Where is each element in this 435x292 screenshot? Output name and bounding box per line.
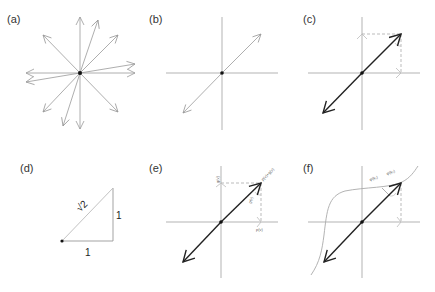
panel-c-label: (c) (303, 13, 316, 25)
origin-dot (219, 220, 223, 224)
hypotenuse-label: √2 (74, 198, 90, 214)
bold-vector-down-left (183, 222, 221, 262)
panel-f-label: (f) (303, 162, 313, 174)
diag-label: g(v) (247, 195, 254, 204)
vector-down-left (183, 73, 222, 113)
phi-label-1: φ(k₁) (369, 174, 379, 182)
phi-label-2: φ(k₂) (386, 168, 397, 176)
panel-e: (e) g(v) p(v) p(v)+g(v) g(v) (149, 162, 278, 278)
bold-vector-up-right (221, 183, 261, 222)
origin-dot (78, 71, 82, 75)
side-label-vertical: 1 (116, 210, 122, 221)
panel-e-label: (e) (149, 162, 162, 174)
origin-dot (360, 220, 364, 224)
panel-f: (f) φ(k₁) φ(k₂) (303, 162, 420, 278)
x-component-label: p(v) (256, 227, 264, 232)
origin-dot (60, 239, 63, 242)
bold-vector-down-left (324, 222, 362, 262)
panel-a: (a) (7, 13, 135, 129)
y-component-label: g(v) (215, 175, 220, 183)
figure-canvas: (a) (b) (c) (0, 0, 435, 292)
origin-dot (220, 71, 224, 75)
bold-vector-down-left (323, 73, 362, 113)
panel-b: (b) (149, 13, 278, 130)
angle-arc (395, 43, 401, 46)
panel-b-label: (b) (149, 13, 162, 25)
bold-vector-up-right (362, 183, 401, 222)
panel-d: (d) 1 1 √2 (20, 162, 122, 258)
triangle-hypotenuse (62, 188, 113, 241)
bold-vector-up-right (362, 34, 401, 73)
panel-d-label: (d) (20, 162, 33, 174)
side-label-horizontal: 1 (85, 247, 91, 258)
panel-a-label: (a) (7, 13, 20, 25)
vector-up-right (222, 34, 261, 73)
tip-label: p(v)+g(v) (260, 166, 275, 181)
panel-c: (c) (303, 13, 420, 130)
angle-arc (255, 192, 261, 195)
origin-dot (360, 71, 364, 75)
